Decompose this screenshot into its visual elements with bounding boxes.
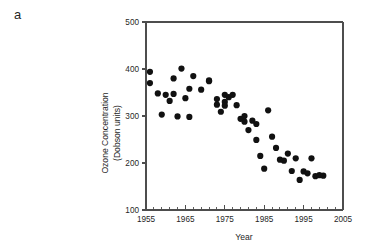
data-point [190, 73, 196, 79]
data-point [186, 114, 192, 120]
data-point [174, 113, 180, 119]
data-point [261, 166, 267, 172]
data-point [167, 98, 173, 104]
data-point [297, 177, 303, 183]
data-point [241, 113, 247, 119]
data-point [147, 69, 153, 75]
data-point [265, 107, 271, 113]
data-point [147, 80, 153, 86]
data-point [214, 102, 220, 108]
data-point [214, 96, 220, 102]
x-tick-label-1995: 1995 [294, 215, 313, 224]
y-axis-label-line2: (Dobson units) [112, 105, 122, 161]
x-tick-label-2005: 2005 [334, 215, 353, 224]
y-tick-label-100: 100 [125, 206, 139, 215]
x-tick-label-1955: 1955 [137, 215, 156, 224]
data-points [147, 65, 327, 183]
data-point [293, 155, 299, 161]
x-axis-label: Year [235, 232, 253, 242]
figure-panel: a 100200300400500 1955196519751985199520… [0, 0, 372, 251]
data-point [159, 111, 165, 117]
data-point [304, 170, 310, 176]
data-point [241, 119, 247, 125]
data-point [257, 153, 263, 159]
data-point [206, 77, 212, 83]
data-point [245, 127, 251, 133]
data-point [186, 86, 192, 92]
data-point [253, 121, 259, 127]
x-tick-label-1975: 1975 [216, 215, 235, 224]
y-tick-label-400: 400 [125, 65, 139, 74]
data-point [269, 134, 275, 140]
y-tick-label-300: 300 [125, 112, 139, 121]
x-tick-label-1985: 1985 [255, 215, 274, 224]
x-tick-label-1965: 1965 [176, 215, 195, 224]
y-tick-label-500: 500 [125, 18, 139, 27]
data-point [170, 91, 176, 97]
data-point [170, 75, 176, 81]
scatter-plot: 100200300400500 195519651975198519952005… [0, 0, 372, 251]
data-point [155, 90, 161, 96]
data-point [234, 102, 240, 108]
data-point [308, 155, 314, 161]
data-point [273, 145, 279, 151]
data-point [198, 87, 204, 93]
y-tick-label-200: 200 [125, 159, 139, 168]
y-axis-label-line1: Ozone Concentration [100, 92, 110, 173]
data-point [285, 151, 291, 157]
data-point [230, 92, 236, 98]
data-point [320, 173, 326, 179]
data-point [218, 109, 224, 115]
data-point [182, 95, 188, 101]
data-point [281, 158, 287, 164]
data-point [178, 65, 184, 71]
data-point [289, 168, 295, 174]
data-point [163, 92, 169, 98]
y-axis-ticks: 100200300400500 [125, 18, 146, 215]
data-point [222, 103, 228, 109]
data-point [253, 137, 259, 143]
